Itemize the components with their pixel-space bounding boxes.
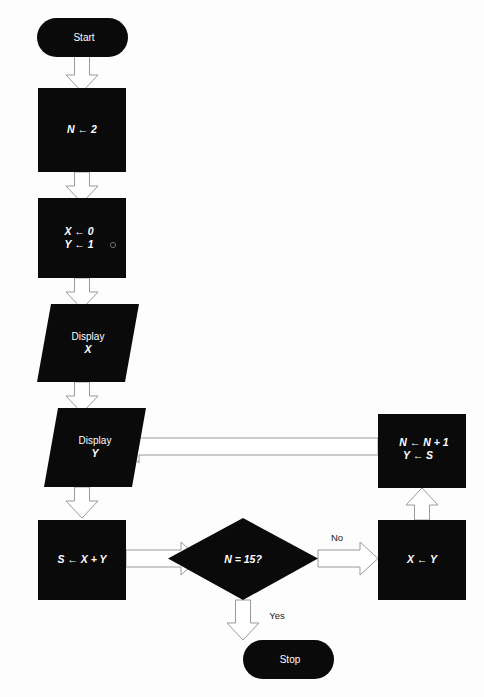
edge-increment-to-display-y — [121, 430, 378, 463]
sum-label: S ← X + Y — [57, 553, 107, 565]
edge-assign-x-to-increment — [406, 488, 438, 520]
increment-label-line2: Y ← S — [403, 449, 433, 461]
decision-label: N = 15? — [224, 553, 262, 565]
init-xy-label-line2: Y ← 1 — [65, 238, 94, 250]
init-n-label: N ← 2 — [67, 123, 97, 135]
display-x-label-line1: Display — [72, 331, 105, 342]
flowchart-diagram: Start N ← 2 X ← 0 Y ← 1 Display X Displa… — [0, 0, 484, 697]
node-increment[interactable]: N ← N + 1 Y ← S — [378, 414, 466, 488]
edge-decision-to-assign-x — [318, 542, 378, 575]
node-stop[interactable]: Stop — [243, 640, 334, 679]
increment-label-line1: N ← N + 1 — [399, 436, 448, 448]
stop-label: Stop — [280, 654, 301, 665]
node-init-xy[interactable]: X ← 0 Y ← 1 — [38, 198, 126, 278]
edge-label-no: No — [331, 532, 343, 543]
display-y-label-line2: Y — [91, 447, 99, 459]
node-init-n[interactable]: N ← 2 — [38, 88, 126, 172]
node-start[interactable]: Start — [37, 18, 128, 57]
init-xy-label-line1: X ← 0 — [63, 225, 93, 237]
display-x-label-line2: X — [83, 343, 92, 355]
edge-display-y-to-sum — [66, 487, 98, 518]
edge-decision-to-stop — [227, 600, 259, 640]
node-assign-x[interactable]: X ← Y — [378, 520, 466, 600]
edge-start-to-init-n — [66, 56, 98, 92]
start-label: Start — [73, 32, 94, 43]
node-decision[interactable]: N = 15? — [168, 518, 318, 600]
assign-x-label: X ← Y — [406, 553, 438, 565]
node-display-x[interactable]: Display X — [37, 304, 139, 382]
display-y-label-line1: Display — [79, 435, 112, 446]
edge-label-yes: Yes — [269, 610, 285, 621]
node-sum[interactable]: S ← X + Y — [38, 520, 126, 600]
node-display-y[interactable]: Display Y — [44, 408, 146, 487]
